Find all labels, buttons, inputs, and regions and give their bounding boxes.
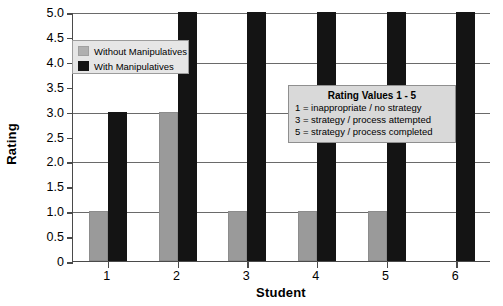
- y-axis-tick-label: 3.0: [20, 106, 64, 120]
- bar-without-manipulatives: [228, 211, 247, 261]
- y-axis-title: Rating: [4, 104, 19, 184]
- x-axis-tick-label: 1: [87, 269, 127, 283]
- legend-label-without: Without Manipulatives: [94, 46, 187, 57]
- x-axis-tick-label: 3: [226, 269, 266, 283]
- bar-without-manipulatives: [368, 211, 387, 261]
- y-axis-tick-label: 4.5: [20, 31, 64, 45]
- x-axis-tick-mark: [108, 261, 110, 268]
- x-axis-tick-mark: [456, 261, 458, 268]
- x-axis-tick-mark: [387, 261, 389, 268]
- y-axis-tick-label: 3.5: [20, 81, 64, 95]
- y-axis-tick-label: 5.0: [20, 6, 64, 20]
- y-axis-tick-label: 0: [20, 255, 64, 269]
- legend-swatch-without-icon: [78, 46, 89, 56]
- y-axis-tick-label: 2.5: [20, 131, 64, 145]
- y-axis-tick-label: 4.0: [20, 56, 64, 70]
- y-axis-tick-label: 1.5: [20, 180, 64, 194]
- x-axis-tick-label: 4: [296, 269, 336, 283]
- rating-note-line-3: 5 = strategy / process completed: [293, 126, 451, 138]
- x-axis-tick-mark: [247, 261, 249, 268]
- y-axis-tick-label: 0.5: [20, 230, 64, 244]
- bar-with-manipulatives: [456, 12, 475, 261]
- x-axis-tick-label: 2: [157, 269, 197, 283]
- y-axis-tick-labels: 00.51.01.52.02.53.03.54.04.55.0: [20, 13, 64, 262]
- bar-with-manipulatives: [247, 12, 266, 261]
- y-axis-tick-label: 1.0: [20, 205, 64, 219]
- rating-values-note: Rating Values 1 - 5 1 = inappropriate / …: [288, 85, 456, 143]
- x-axis-tick-mark: [178, 261, 180, 268]
- bar-without-manipulatives: [89, 211, 108, 261]
- x-axis-title: Student: [72, 285, 490, 300]
- legend-entry-without: Without Manipulatives: [78, 44, 188, 58]
- chart-legend: Without Manipulatives With Manipulatives: [72, 40, 189, 74]
- rating-note-line-1: 1 = inappropriate / no strategy: [293, 102, 451, 114]
- bar-without-manipulatives: [159, 112, 178, 261]
- legend-entry-with: With Manipulatives: [78, 59, 188, 73]
- legend-swatch-with-icon: [78, 61, 89, 71]
- y-axis-tick-label: 2.0: [20, 155, 64, 169]
- x-axis-tick-mark: [317, 261, 319, 268]
- legend-label-with: With Manipulatives: [94, 61, 174, 72]
- bar-without-manipulatives: [298, 211, 317, 261]
- bar-with-manipulatives: [108, 112, 127, 261]
- rating-note-title: Rating Values 1 - 5: [293, 89, 451, 102]
- x-axis-tick-marks: [73, 261, 490, 268]
- x-axis-tick-label: 6: [435, 269, 475, 283]
- rating-note-line-2: 3 = strategy / process attempted: [293, 114, 451, 126]
- x-axis-tick-label: 5: [366, 269, 406, 283]
